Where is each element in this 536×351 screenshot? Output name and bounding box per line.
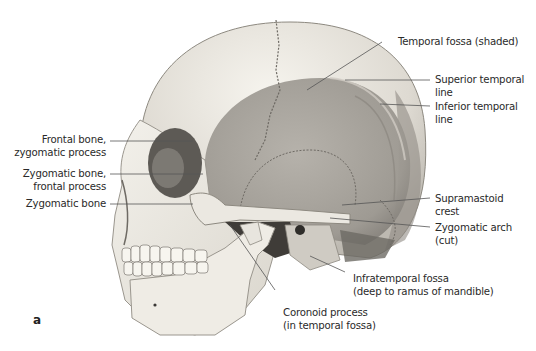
label-line: Coronoid process xyxy=(283,306,376,319)
label-zygomatic-arch-cut: Zygomatic arch (cut) xyxy=(435,221,512,247)
label-line: (in temporal fossa) xyxy=(283,319,376,332)
label-line: crest xyxy=(435,205,503,218)
label-line: Frontal bone, xyxy=(14,133,106,146)
label-frontal-bone-zygomatic-process: Frontal bone, zygomatic process xyxy=(14,133,106,159)
label-line: Superior temporal xyxy=(435,73,524,86)
label-line: Zygomatic arch xyxy=(435,221,512,234)
label-line: (cut) xyxy=(435,234,512,247)
label-temporal-fossa: Temporal fossa (shaded) xyxy=(398,35,518,48)
label-zygomatic-bone: Zygomatic bone xyxy=(26,197,106,210)
label-inferior-temporal-line: Inferior temporal line xyxy=(435,100,518,126)
label-line: line xyxy=(435,86,524,99)
label-infratemporal-fossa: Infratemporal fossa (deep to ramus of ma… xyxy=(353,272,494,298)
label-line: Temporal fossa (shaded) xyxy=(398,35,518,48)
skull-lateral-figure: Frontal bone, zygomatic process Zygomati… xyxy=(0,0,536,351)
label-line: (deep to ramus of mandible) xyxy=(353,285,494,298)
label-coronoid-process: Coronoid process (in temporal fossa) xyxy=(283,306,376,332)
label-line: Infratemporal fossa xyxy=(353,272,494,285)
label-line: Inferior temporal xyxy=(435,100,518,113)
panel-letter: a xyxy=(33,313,41,327)
label-supramastoid-crest: Supramastoid crest xyxy=(435,192,503,218)
label-zygomatic-bone-frontal-process: Zygomatic bone, frontal process xyxy=(23,167,106,193)
label-line: Zygomatic bone xyxy=(26,197,106,210)
label-line: zygomatic process xyxy=(14,146,106,159)
label-line: Zygomatic bone, xyxy=(23,167,106,180)
label-superior-temporal-line: Superior temporal line xyxy=(435,73,524,99)
label-line: Supramastoid xyxy=(435,192,503,205)
label-line: line xyxy=(435,113,518,126)
label-line: frontal process xyxy=(23,180,106,193)
